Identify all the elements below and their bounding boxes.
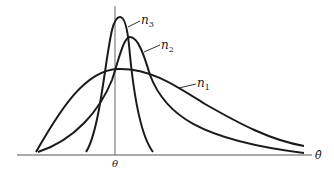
label-theta: θ: [112, 158, 118, 169]
curve-n2: [38, 37, 304, 153]
sampling-distributions-diagram: n3 n2 n1 θ θ̂: [0, 0, 334, 173]
leader-n3: [128, 21, 140, 27]
label-n1: n1: [197, 76, 210, 92]
label-n3: n3: [141, 13, 154, 29]
label-n2: n2: [161, 38, 174, 54]
curve-n1: [36, 69, 304, 152]
leader-n1: [179, 84, 196, 88]
leader-n2: [144, 45, 160, 52]
curve-n3: [86, 17, 153, 152]
label-theta-hat: θ̂: [315, 149, 322, 162]
